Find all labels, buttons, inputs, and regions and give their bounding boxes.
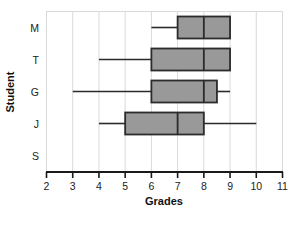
y-axis-title: Student [4, 71, 16, 112]
y-tick-label-M: M [30, 22, 39, 34]
x-tick-label-9: 9 [227, 180, 233, 192]
x-tick-label-8: 8 [201, 180, 207, 192]
x-tick-label-3: 3 [70, 180, 76, 192]
x-tick-label-11: 11 [277, 180, 288, 192]
x-tick-label-7: 7 [175, 180, 181, 192]
box-T [151, 49, 230, 71]
boxplot-canvas: 234567891011 MTGJS Grades Student [0, 0, 306, 225]
y-tick-label-T: T [33, 54, 40, 66]
y-tick-label-J: J [34, 118, 39, 130]
box-J [125, 113, 204, 135]
y-tick-label-G: G [31, 86, 39, 98]
x-tick-label-2: 2 [44, 180, 50, 192]
x-tick-label-4: 4 [96, 180, 102, 192]
x-tick-label-10: 10 [250, 180, 262, 192]
box-G [151, 81, 217, 103]
x-tick-label-5: 5 [122, 180, 128, 192]
x-axis-title: Grades [145, 195, 183, 207]
x-tick-label-6: 6 [148, 180, 154, 192]
boxplot-figure: 234567891011 MTGJS Grades Student [0, 0, 306, 225]
y-tick-label-S: S [32, 150, 39, 162]
